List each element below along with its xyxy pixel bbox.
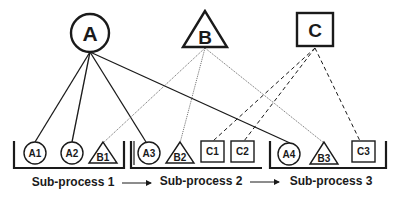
edge-c-c1 (213, 48, 315, 141)
node-b3: B3 (310, 142, 338, 164)
subprocess-3-label: Sub-process 3 (290, 174, 373, 188)
node-a2-label: A2 (66, 148, 79, 159)
node-b3-label: B3 (318, 153, 331, 164)
node-a1-label: A1 (29, 148, 42, 159)
edge-b-b2 (180, 48, 205, 143)
node-a4-label: A4 (283, 149, 296, 160)
node-a: A (71, 14, 109, 52)
subprocess-2-nodes: A3 B2 C1 C2 (138, 141, 254, 164)
subprocess-3-nodes: A4 B3 C3 (278, 141, 375, 165)
edge-b-b1 (103, 48, 205, 143)
node-c1: C1 (201, 141, 224, 162)
node-a1: A1 (24, 142, 46, 164)
edge-a-a3 (90, 52, 146, 142)
hierarchy-diagram: A B C A1 A2 B1 A3 (0, 0, 398, 200)
edge-c-c3 (315, 48, 360, 141)
node-c: C (297, 13, 333, 46)
subprocess-1-nodes: A1 A2 B1 (24, 142, 117, 164)
node-a4: A4 (278, 143, 300, 165)
subprocess-1-label: Sub-process 1 (32, 175, 115, 189)
node-b-label: B (198, 27, 212, 48)
node-b1-label: B1 (97, 152, 110, 163)
node-c2-label: C2 (236, 146, 249, 157)
node-a-label: A (82, 22, 97, 45)
node-b2-label: B2 (174, 152, 187, 163)
edge-b-b3 (205, 48, 324, 143)
node-c-label: C (308, 20, 322, 41)
edges-from-c (213, 48, 360, 141)
edges-from-a (35, 52, 290, 143)
node-c3: C3 (352, 141, 375, 162)
node-a3: A3 (138, 142, 160, 164)
node-a2: A2 (61, 142, 83, 164)
edge-a-a1 (35, 52, 90, 142)
node-c3-label: C3 (357, 146, 370, 157)
node-c2: C2 (231, 141, 254, 162)
node-c1-label: C1 (206, 146, 219, 157)
edges-from-b (103, 48, 324, 143)
node-b: B (183, 11, 227, 48)
node-b1: B1 (89, 142, 117, 163)
edge-c-c2 (244, 48, 315, 141)
node-b2: B2 (166, 142, 194, 163)
subprocess-2-label: Sub-process 2 (160, 174, 243, 188)
node-a3-label: A3 (143, 148, 156, 159)
